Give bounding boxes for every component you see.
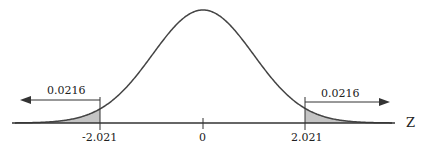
left-area-label: 0.0216 <box>47 85 86 96</box>
right-area-label: 0.0216 <box>321 88 360 99</box>
z-axis-label: Z <box>406 116 415 129</box>
left-arrowhead-icon <box>20 96 31 104</box>
right-arrowhead-icon <box>379 98 390 106</box>
left-tick-label: -2.021 <box>82 132 117 143</box>
right-tick-label: 2.021 <box>291 132 323 143</box>
normal-curve-plot <box>0 0 427 153</box>
normal-curve <box>15 10 392 123</box>
center-tick-label: 0 <box>199 132 206 143</box>
